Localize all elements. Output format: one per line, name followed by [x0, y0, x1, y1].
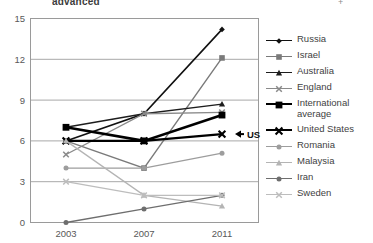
legend-key-marker	[273, 173, 285, 185]
legend-key-marker	[273, 51, 285, 63]
legend-label: Romania	[292, 139, 335, 150]
line-chart-plot: 03691215 200320072011 US	[0, 0, 266, 243]
x-tick-label: 2007	[133, 228, 154, 239]
series-romania	[64, 151, 225, 171]
data-point-diamond	[276, 38, 282, 44]
y-tick-label: 15	[14, 13, 25, 24]
data-point-x	[276, 86, 282, 92]
legend-key-marker	[273, 189, 285, 201]
legend-item-russia[interactable]: Russia	[266, 33, 373, 49]
series-russia	[63, 27, 225, 144]
legend-key-marker	[273, 67, 285, 79]
data-point-circle	[142, 166, 147, 171]
data-point-circle	[64, 220, 69, 225]
legend-key-square-icon	[266, 50, 292, 63]
legend-item-malaysia[interactable]: Malaysia	[266, 155, 373, 171]
legend-key-circle-icon	[266, 140, 292, 153]
legend-label: Sweden	[292, 187, 331, 198]
legend-key-marker	[273, 35, 285, 47]
legend-item-international-average[interactable]: International average	[266, 97, 373, 123]
legend-key-x-icon	[266, 124, 292, 137]
data-point-circle	[142, 206, 147, 211]
data-point-x	[276, 192, 282, 198]
y-tick-label: 6	[20, 135, 25, 146]
legend-key-marker	[273, 99, 285, 111]
legend-item-sweden[interactable]: Sweden	[266, 187, 373, 203]
legend-key-marker	[273, 125, 285, 137]
y-axis-tick-labels: 03691215	[14, 13, 25, 228]
data-point-x	[63, 152, 69, 158]
chart-container: advanced + 03691215 200320072011 US Russ…	[0, 0, 373, 243]
data-point-circle	[277, 176, 282, 181]
data-point-square	[276, 101, 283, 108]
legend-label: Iran	[292, 171, 313, 182]
x-axis-tick-labels: 200320072011	[55, 228, 232, 239]
data-point-triangle	[276, 159, 282, 165]
plot-frame	[31, 19, 259, 223]
legend-item-united-states[interactable]: United States	[266, 123, 373, 139]
x-tick-label: 2003	[55, 228, 76, 239]
us-annotation: US	[235, 129, 260, 140]
x-tick-label: 2011	[212, 228, 232, 239]
legend-label: International average	[292, 97, 373, 119]
y-tick-label: 12	[14, 54, 25, 65]
data-point-circle	[277, 144, 282, 149]
legend-label: Russia	[292, 33, 326, 44]
data-point-triangle	[276, 69, 282, 75]
legend-label: Australia	[292, 65, 334, 76]
data-point-x	[276, 127, 283, 134]
legend-label: Israel	[292, 49, 320, 60]
legend-key-marker	[273, 141, 285, 153]
data-point-square	[219, 55, 225, 61]
legend-key-x-icon	[266, 82, 292, 95]
y-tick-label: 0	[20, 217, 25, 228]
legend-key-circle-icon	[266, 172, 292, 185]
legend-key-marker	[273, 157, 285, 169]
y-tick-label: 3	[20, 176, 25, 187]
data-point-square	[276, 54, 282, 60]
gridlines-group	[31, 59, 259, 181]
data-point-square	[63, 124, 70, 131]
legend-item-england[interactable]: England	[266, 81, 373, 97]
legend-item-australia[interactable]: Australia	[266, 65, 373, 81]
series-layer	[63, 27, 226, 225]
chart-legend: RussiaIsraelAustraliaEnglandInternationa…	[266, 33, 373, 203]
legend-item-romania[interactable]: Romania	[266, 139, 373, 155]
series-australia	[63, 101, 225, 130]
legend-key-x-icon	[266, 188, 292, 201]
legend-key-triangle-icon	[266, 156, 292, 169]
data-point-circle	[64, 166, 69, 171]
legend-item-israel[interactable]: Israel	[266, 49, 373, 65]
y-tick-label: 9	[20, 95, 25, 106]
legend-label: United States	[292, 123, 354, 134]
legend-key-diamond-icon	[266, 34, 292, 47]
data-point-square	[219, 112, 226, 119]
legend-key-marker	[273, 83, 285, 95]
legend-key-square-icon	[266, 98, 292, 111]
annotation-label-us: US	[247, 129, 260, 140]
data-point-circle	[220, 151, 225, 156]
cut-off-right-tick: +	[338, 0, 343, 6]
legend-label: England	[292, 81, 332, 92]
legend-key-triangle-icon	[266, 66, 292, 79]
legend-item-iran[interactable]: Iran	[266, 171, 373, 187]
series-international-average	[63, 112, 226, 145]
legend-label: Malaysia	[292, 155, 335, 166]
